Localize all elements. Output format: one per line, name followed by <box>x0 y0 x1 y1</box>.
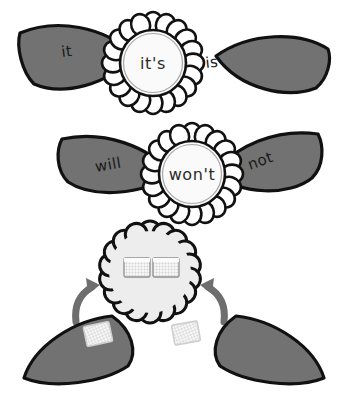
card-top-margin <box>124 258 150 262</box>
worksheet-svg: it is <box>0 0 348 401</box>
blank-card-right[interactable] <box>153 258 179 277</box>
left-leaf-word-its: it <box>60 42 73 61</box>
card-shape <box>83 322 113 347</box>
worksheet-canvas: it is <box>0 0 348 401</box>
right-leaf-word-is: is <box>205 53 220 72</box>
cloud-blank[interactable] <box>98 220 202 323</box>
card-top-margin <box>153 258 179 262</box>
center-word-wont: won't <box>169 165 216 184</box>
blank-card-left[interactable] <box>124 258 150 277</box>
center-word-its: it's <box>140 54 166 73</box>
blank-card-left-leaf[interactable] <box>83 322 113 347</box>
blank-card-right-leaf[interactable] <box>171 321 200 345</box>
card-shape <box>171 321 200 345</box>
